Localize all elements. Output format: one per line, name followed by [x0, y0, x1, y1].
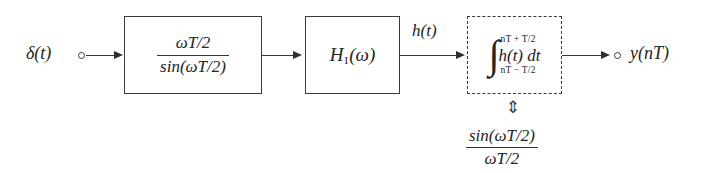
- input-signal-label: δ(t): [26, 44, 51, 62]
- input-terminal-circle: [78, 52, 85, 59]
- equivalent-denominator: ωT/2: [466, 147, 538, 169]
- integral-expression: ∫ nT + T/2 h(t) dt nT − T/2: [489, 28, 541, 82]
- intermediate-signal-label: h(t): [412, 22, 437, 39]
- arrowhead-into-integrator: [456, 51, 465, 59]
- inverse-sinc-numerator: ωT/2: [157, 33, 229, 54]
- interpolation-filter-block: HI(ω): [305, 16, 400, 94]
- wire-block2-to-integrator: [400, 55, 458, 56]
- equivalent-numerator: sin(ωT/2): [466, 126, 538, 147]
- interpolation-filter-expression: HI(ω): [330, 45, 375, 66]
- up-down-double-arrow-icon: ⇕: [506, 99, 520, 116]
- integral-integrand: h(t) dt: [498, 47, 540, 64]
- filter-symbol: H: [330, 44, 344, 65]
- integral-limits: nT + T/2 h(t) dt nT − T/2: [500, 28, 540, 82]
- arrowhead-into-block2: [293, 51, 302, 59]
- wire-input-to-block1: [86, 55, 116, 56]
- output-terminal-circle: [614, 52, 621, 59]
- filter-argument: (ω): [348, 44, 375, 65]
- inverse-sinc-block: ωT/2 sin(ωT/2): [124, 16, 262, 94]
- integral-lower-limit: nT − T/2: [500, 66, 535, 76]
- equivalent-fraction: sin(ωT/2) ωT/2: [466, 126, 538, 169]
- integrator-block: ∫ nT + T/2 h(t) dt nT − T/2: [467, 16, 562, 94]
- wire-block1-to-block2: [262, 55, 295, 56]
- output-signal-label: y(nT): [630, 44, 669, 62]
- wire-integrator-to-output: [562, 55, 606, 56]
- block-diagram-canvas: δ(t) ωT/2 sin(ωT/2) HI(ω) h(t) ∫ nT + T/…: [0, 0, 713, 173]
- equivalent-transfer-function: sin(ωT/2) ωT/2: [466, 126, 538, 169]
- inverse-sinc-fraction: ωT/2 sin(ωT/2): [157, 33, 229, 76]
- integral-upper-limit: nT + T/2: [500, 35, 535, 45]
- arrowhead-into-output-terminal: [601, 51, 610, 59]
- inverse-sinc-denominator: sin(ωT/2): [157, 55, 229, 77]
- arrowhead-into-block1: [114, 51, 123, 59]
